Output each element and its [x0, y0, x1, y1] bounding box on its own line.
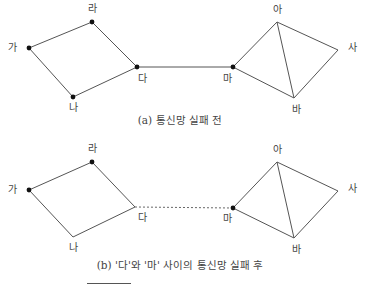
- node-dot-ra: [90, 20, 95, 25]
- node-label-ma: 마: [223, 74, 232, 84]
- edge-ga-ra: [29, 22, 92, 48]
- caption-before-failure: (a) 통신망 실패 전: [138, 112, 222, 127]
- node-dot-ga: [27, 188, 32, 193]
- footnote-rule: [87, 283, 131, 284]
- node-label-sa: 사: [348, 43, 357, 53]
- node-dot-da: [135, 65, 140, 70]
- edge-da-ma-failed: [135, 207, 233, 208]
- edge-na-ga: [29, 48, 73, 97]
- edge-a-ba: [277, 162, 294, 238]
- edge-ra-da: [92, 162, 135, 207]
- node-dot-ga: [27, 46, 32, 51]
- node-label-na: 나: [69, 243, 78, 253]
- edge-ra-da: [92, 22, 137, 67]
- edge-da-na: [73, 67, 137, 97]
- edge-ba-ma: [233, 208, 294, 238]
- node-label-a: 아: [273, 5, 282, 15]
- node-label-ba: 바: [292, 105, 301, 115]
- edge-ma-a: [233, 22, 277, 67]
- edge-a-ba: [277, 22, 294, 98]
- node-dot-ma: [231, 206, 236, 211]
- edge-ma-a: [233, 162, 277, 208]
- node-label-ga: 가: [8, 185, 17, 195]
- node-dot-ra: [90, 160, 95, 165]
- node-label-ma: 마: [223, 214, 232, 224]
- edge-ga-ra: [29, 162, 92, 190]
- node-dot-na: [71, 95, 76, 100]
- node-label-ra: 라: [88, 4, 97, 14]
- edge-na-ga: [29, 190, 73, 237]
- node-label-ra: 라: [88, 144, 97, 154]
- node-label-da: 다: [138, 213, 147, 223]
- node-label-a: 아: [273, 145, 282, 155]
- node-label-sa: 사: [348, 184, 357, 194]
- node-label-ga: 가: [8, 43, 17, 53]
- node-dot-ma: [231, 65, 236, 70]
- caption-after-failure: (b) '다'와 '마' 사이의 통신망 실패 후: [97, 257, 264, 272]
- edge-a-sa: [277, 22, 338, 50]
- node-label-da: 다: [138, 74, 147, 84]
- edge-ba-ma: [233, 67, 294, 98]
- node-label-ba: 바: [292, 245, 301, 255]
- edge-sa-ba: [294, 191, 338, 238]
- edge-a-sa: [277, 162, 338, 191]
- edge-sa-ba: [294, 50, 338, 98]
- edge-da-na: [73, 207, 135, 237]
- network-diagram: [0, 0, 367, 286]
- node-label-na: 나: [69, 103, 78, 113]
